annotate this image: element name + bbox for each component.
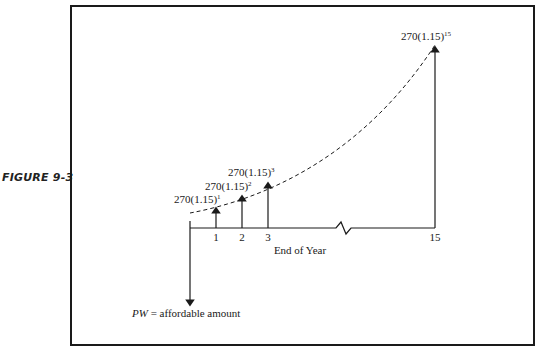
tick-label-3: 3 xyxy=(265,231,271,243)
cash-flow-label-year-2: 270(1.15)2 xyxy=(205,180,252,193)
cash-flow-label-year-3: 270(1.15)3 xyxy=(228,166,275,179)
axis-label: End of Year xyxy=(274,244,327,256)
cash-flow-label-year-15: 270(1.15)15 xyxy=(401,30,452,43)
tick-label-2: 2 xyxy=(239,231,245,243)
time-axis xyxy=(190,222,435,234)
tick-label-15: 15 xyxy=(430,231,442,243)
cash-flow-diagram: 1 2 3 15 End of Year 270(1.15)1 270(1.15… xyxy=(0,0,538,353)
cash-flow-label-year-1: 270(1.15)1 xyxy=(174,193,221,206)
tick-label-1: 1 xyxy=(213,231,219,243)
pw-label: PW = affordable amount xyxy=(131,307,240,319)
